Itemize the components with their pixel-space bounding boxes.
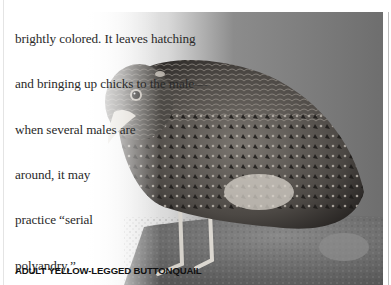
text-line: brightly colored. It leaves hatching <box>15 31 207 46</box>
text-line: practice “serial <box>15 212 207 227</box>
text-line: and bringing up chicks to the male— <box>15 76 207 91</box>
text-line: around, it may <box>15 167 207 182</box>
page-edge-line <box>3 0 4 285</box>
photo-caption: ADULT YELLOW-LEGGED BUTTONQUAIL <box>15 265 202 276</box>
page-edge-line-right <box>388 12 389 285</box>
book-page: brightly colored. It leaves hatching and… <box>0 0 391 285</box>
text-line: when several males are <box>15 122 207 137</box>
article-body: brightly colored. It leaves hatching and… <box>15 1 207 285</box>
